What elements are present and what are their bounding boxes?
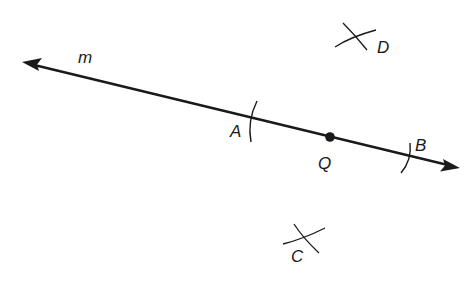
arc-cross-C xyxy=(283,224,325,253)
right-arrow-icon xyxy=(440,159,460,172)
label-C: C xyxy=(291,247,304,266)
arc-A xyxy=(250,101,257,142)
arc-cross-D xyxy=(335,23,376,50)
construction-diagram: m A Q B D C xyxy=(0,0,474,285)
label-B: B xyxy=(415,136,426,155)
line-m xyxy=(22,58,460,172)
arc-B xyxy=(401,143,410,173)
point-Q xyxy=(325,132,335,142)
left-arrow-icon xyxy=(22,58,42,71)
label-m: m xyxy=(78,48,92,67)
label-D: D xyxy=(377,38,389,57)
label-A: A xyxy=(229,122,241,141)
label-Q: Q xyxy=(318,154,331,173)
